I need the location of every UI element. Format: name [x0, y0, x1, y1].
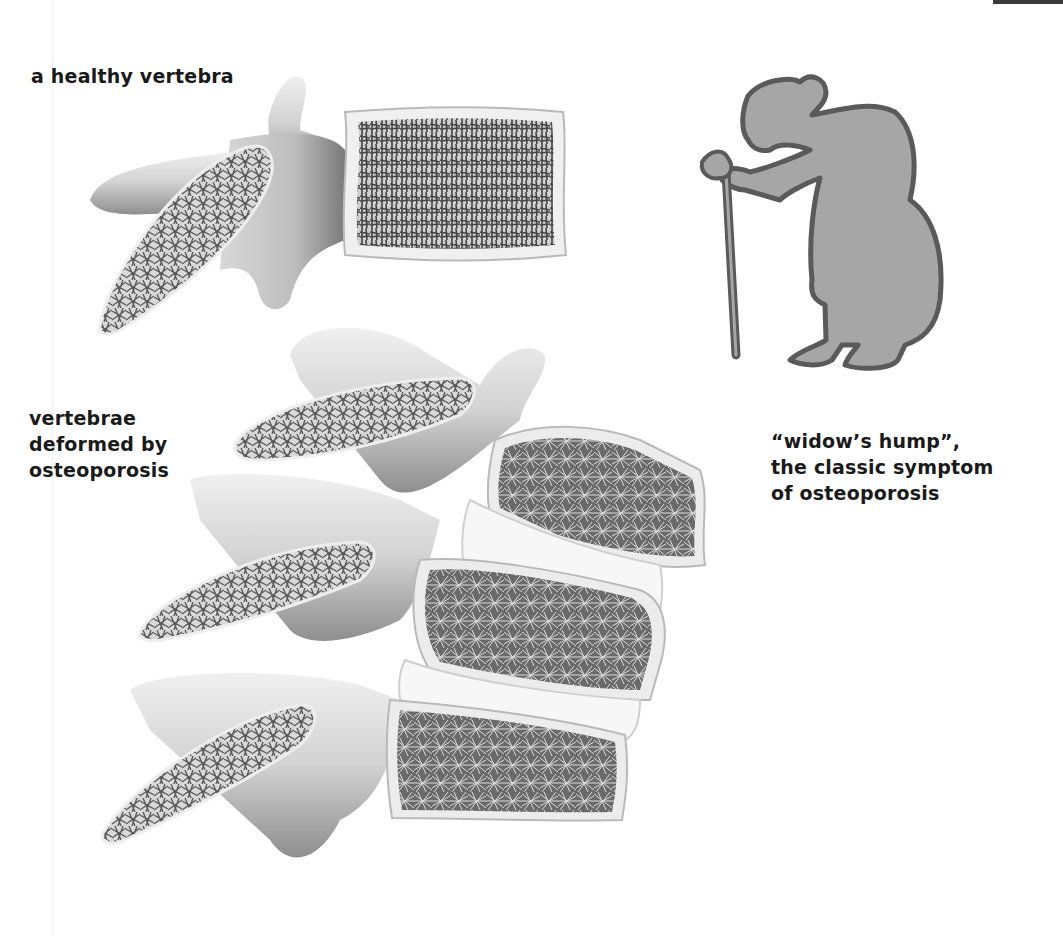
label-widows-hump: “widow’s hump”, the classic symptom of o… [771, 428, 994, 506]
label-healthy-vertebra: a healthy vertebra [31, 63, 234, 89]
label-hump-line-1: “widow’s hump”, [771, 428, 994, 454]
label-hump-line-2: the classic symptom [771, 454, 994, 480]
label-hump-line-3: of osteoporosis [771, 480, 994, 506]
label-deformed-line-2: deformed by [29, 431, 169, 457]
label-deformed-vertebrae: vertebrae deformed by osteoporosis [29, 405, 169, 483]
deformed-vertebrae-stack [102, 328, 705, 857]
healthy-vertebra [90, 76, 566, 334]
label-deformed-line-1: vertebrae [29, 405, 169, 431]
label-deformed-line-3: osteoporosis [29, 457, 169, 483]
widows-hump-silhouette [702, 77, 941, 368]
